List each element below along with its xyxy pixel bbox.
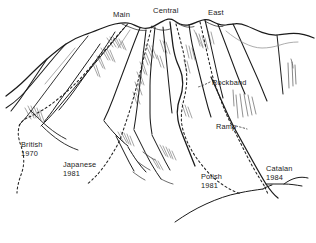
skyline-ridge	[6, 19, 314, 96]
route-year-british: 1970	[21, 149, 43, 158]
route-name-polish: Polish	[201, 172, 222, 181]
central-gully	[170, 22, 195, 166]
east-flank-ridges	[189, 20, 267, 117]
feature-label-ramp: Ramp	[216, 122, 236, 131]
route-year-japanese: 1981	[63, 169, 96, 178]
route-year-catalan: 1984	[266, 173, 293, 182]
mountain-line-drawing	[0, 0, 316, 243]
glacier-tongue	[175, 185, 272, 222]
route-label-polish: Polish 1981	[201, 172, 222, 190]
face-hatching	[25, 31, 214, 170]
lower-basin	[104, 121, 170, 179]
basin-fan-lines	[133, 152, 173, 184]
route-label-british: British 1970	[21, 140, 43, 158]
right-outlier-spur	[288, 59, 296, 88]
figure-canvas: Main Central East Rockband Ramp British …	[0, 0, 316, 243]
leader-rockband	[198, 82, 210, 87]
route-name-british: British	[21, 140, 43, 149]
route-name-japanese: Japanese	[63, 160, 96, 169]
route-label-japanese: Japanese 1981	[63, 160, 96, 178]
route-name-catalan: Catalan	[266, 164, 293, 173]
route-line-japanese	[87, 26, 152, 184]
summit-label-main: Main	[113, 10, 130, 19]
summit-label-central: Central	[153, 6, 179, 15]
leader-ramp	[236, 126, 247, 129]
summit-label-east: East	[208, 8, 224, 17]
west-lower-shoulder	[6, 44, 66, 111]
route-year-polish: 1981	[201, 181, 222, 190]
route-label-catalan: Catalan 1984	[266, 164, 293, 182]
east-face-hatching	[233, 90, 256, 118]
feature-label-rockband: Rockband	[212, 78, 246, 87]
